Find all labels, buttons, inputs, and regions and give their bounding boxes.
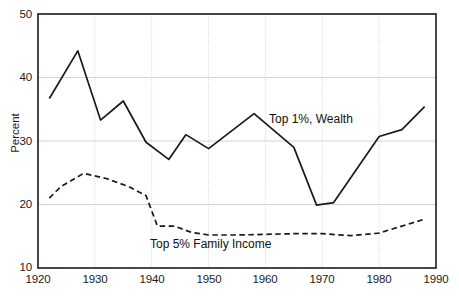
x-tick-label-1940: 1940 — [130, 273, 174, 285]
series-annotation-wealth: Top 1%, Wealth — [269, 112, 353, 126]
x-tick-label-1960: 1960 — [243, 273, 287, 285]
y-tick-label-40: 40 — [2, 71, 32, 83]
x-tick-label-1990: 1990 — [414, 273, 458, 285]
series-line-wealth — [49, 51, 424, 205]
chart-figure: Percent 50 40 30 20 10 1920 1930 1940 19… — [0, 0, 459, 300]
y-tick-label-20: 20 — [2, 198, 32, 210]
y-tick-label-50: 50 — [2, 8, 32, 20]
y-axis-label: Percent — [9, 98, 21, 168]
x-tick-label-1930: 1930 — [73, 273, 117, 285]
series-annotation-family-income: Top 5% Family Income — [150, 237, 271, 251]
x-tick-label-1970: 1970 — [300, 273, 344, 285]
x-tick-label-1920: 1920 — [16, 273, 60, 285]
y-tick-label-30: 30 — [2, 135, 32, 147]
y-tick-label-10: 10 — [2, 261, 32, 273]
x-tick-label-1950: 1950 — [187, 273, 231, 285]
series-lines — [49, 51, 424, 236]
x-tick-label-1980: 1980 — [357, 273, 401, 285]
chart-plot-area — [0, 0, 459, 300]
